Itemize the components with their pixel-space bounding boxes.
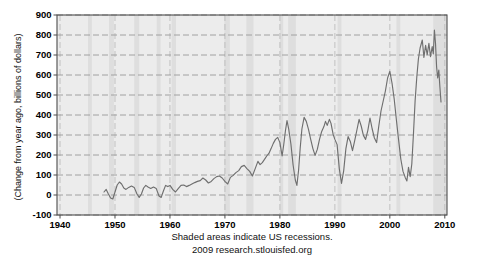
x-tick-label: 1940 — [49, 219, 70, 230]
x-tick-label: 2010 — [434, 219, 455, 230]
x-tick-label: 1970 — [214, 219, 235, 230]
y-tick-label: 200 — [36, 149, 52, 160]
y-tick-label: 100 — [36, 169, 52, 180]
x-tick-label: 1980 — [269, 219, 290, 230]
fred-chart-figure: (Change from year ago, billions of dolla… — [0, 0, 481, 268]
x-tick-label: 1950 — [104, 219, 125, 230]
chart-plot-area: -100010020030040050060070080090019401950… — [0, 0, 481, 268]
y-tick-labels: -1000100200300400500600700800900 — [32, 9, 51, 220]
y-tick-label: 500 — [36, 89, 52, 100]
x-tick-label: 1960 — [159, 219, 180, 230]
source-credit: 2009 research.stlouisfed.org — [57, 244, 447, 255]
recession-note: Shaded areas indicate US recessions. — [57, 231, 447, 242]
y-tick-label: 300 — [36, 129, 52, 140]
y-tick-label: 400 — [36, 109, 52, 120]
y-tick-label: 0 — [46, 189, 51, 200]
x-tick-labels: 19401950196019701980199020002010 — [49, 219, 455, 230]
y-tick-label: 900 — [36, 9, 52, 20]
y-tick-label: 700 — [36, 49, 52, 60]
x-tick-label: 2000 — [379, 219, 400, 230]
y-tick-label: 800 — [36, 29, 52, 40]
y-tick-label: 600 — [36, 69, 52, 80]
x-tick-label: 1990 — [324, 219, 345, 230]
